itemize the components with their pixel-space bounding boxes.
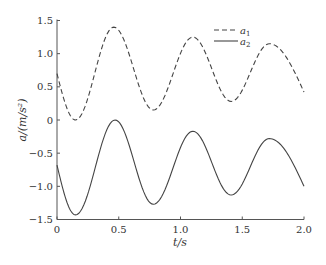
y-axis-title: a/(m/s²) xyxy=(16,98,29,141)
legend: a1a2 xyxy=(214,25,250,49)
x-tick-label: 0.5 xyxy=(111,224,127,235)
y-tick-label: −1.0 xyxy=(29,181,53,192)
x-axis-title: t/s xyxy=(173,236,187,249)
series-layer xyxy=(57,27,304,215)
y-tick-label: 1.5 xyxy=(37,15,53,26)
y-tick-label: −0.5 xyxy=(29,148,53,159)
x-tick-label: 2.0 xyxy=(296,224,312,235)
y-tick-label: −1.5 xyxy=(29,214,53,225)
x-tick-label: 1.5 xyxy=(234,224,250,235)
series-a1-line xyxy=(57,27,304,120)
chart-container: −1.5−1.0−0.500.51.01.5 00.51.01.52.0 a/(… xyxy=(0,0,326,265)
x-tick-label: 1.0 xyxy=(173,224,189,235)
series-a2-line xyxy=(57,120,304,215)
y-tick-label: 0 xyxy=(47,115,53,126)
axes: −1.5−1.0−0.500.51.01.5 00.51.01.52.0 xyxy=(29,15,312,235)
line-chart: −1.5−1.0−0.500.51.01.5 00.51.01.52.0 a/(… xyxy=(0,0,326,265)
x-tick-label: 0 xyxy=(54,224,60,235)
y-tick-label: 1.0 xyxy=(37,48,53,59)
y-ticks: −1.5−1.0−0.500.51.01.5 xyxy=(29,15,60,225)
y-tick-label: 0.5 xyxy=(37,81,53,92)
